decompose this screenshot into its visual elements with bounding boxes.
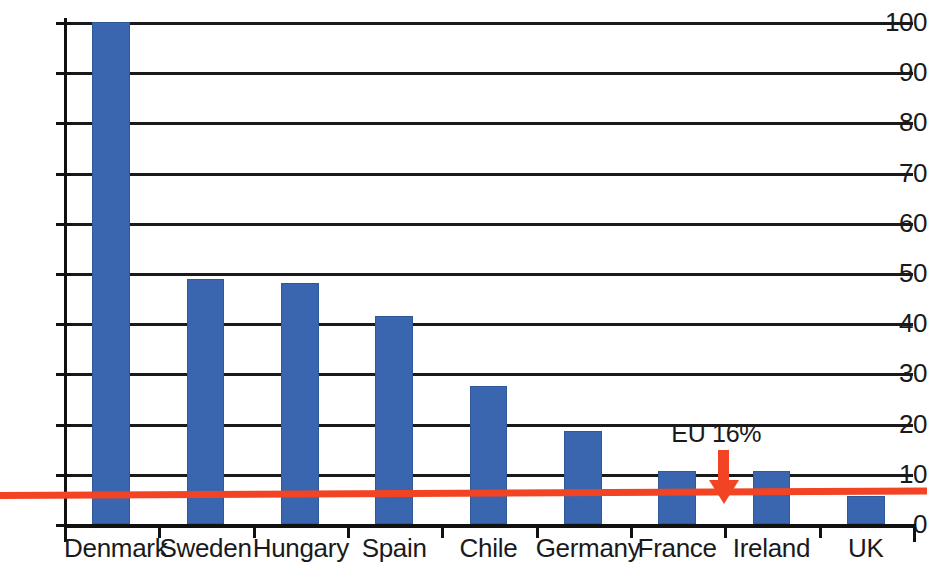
bar	[753, 471, 791, 524]
eu-annotation-arrow-icon	[706, 450, 742, 510]
bar	[92, 22, 130, 524]
x-axis-line	[64, 524, 913, 528]
bar	[187, 279, 225, 524]
bar	[281, 283, 319, 524]
x-axis-tick-label: UK	[819, 534, 913, 563]
bar	[847, 496, 885, 524]
bar	[658, 471, 696, 524]
x-axis-tick-label: Chile	[441, 534, 535, 563]
eu-annotation-label: EU 16%	[671, 419, 761, 448]
x-axis-tick-mark	[913, 524, 916, 542]
bar-chart: 0102030405060708090100 DenmarkSwedenHung…	[0, 0, 927, 569]
x-axis-tick-label: Denmark	[64, 534, 158, 563]
x-axis-tick-label: Hungary	[253, 534, 347, 563]
x-axis-tick-label: Spain	[347, 534, 441, 563]
bar	[564, 431, 602, 524]
x-axis-tick-label: Germany	[536, 534, 630, 563]
bar	[470, 386, 508, 524]
plot-area	[64, 22, 913, 524]
x-axis-tick-label: France	[630, 534, 724, 563]
x-axis-tick-label: Ireland	[724, 534, 818, 563]
x-axis-tick-label: Sweden	[158, 534, 252, 563]
